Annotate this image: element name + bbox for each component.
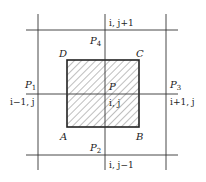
node-label-P2: P2 (89, 142, 101, 155)
node-index-P1: i−1, j (10, 97, 35, 107)
node-index-P3: i+1, j (170, 97, 195, 107)
node-label-P1: P1 (24, 79, 36, 92)
node-label-P: P (108, 81, 116, 92)
node-index-P2: i, j−1 (109, 160, 134, 170)
node-label-P4: P4 (89, 35, 102, 48)
corner-label-C: C (136, 48, 144, 59)
node-index-P: i, j (109, 98, 120, 108)
node-label-P3: P3 (169, 79, 181, 92)
node-index-P4: i, j+1 (109, 18, 134, 28)
corner-label-A: A (59, 131, 67, 142)
control-volume-ABCD (67, 60, 139, 127)
corner-label-B: B (135, 131, 143, 142)
corner-label-D: D (58, 48, 67, 59)
finite-volume-grid-diagram: D C A B P4 i, j+1 P1 i−1, j P3 i+1, j P … (0, 0, 206, 182)
